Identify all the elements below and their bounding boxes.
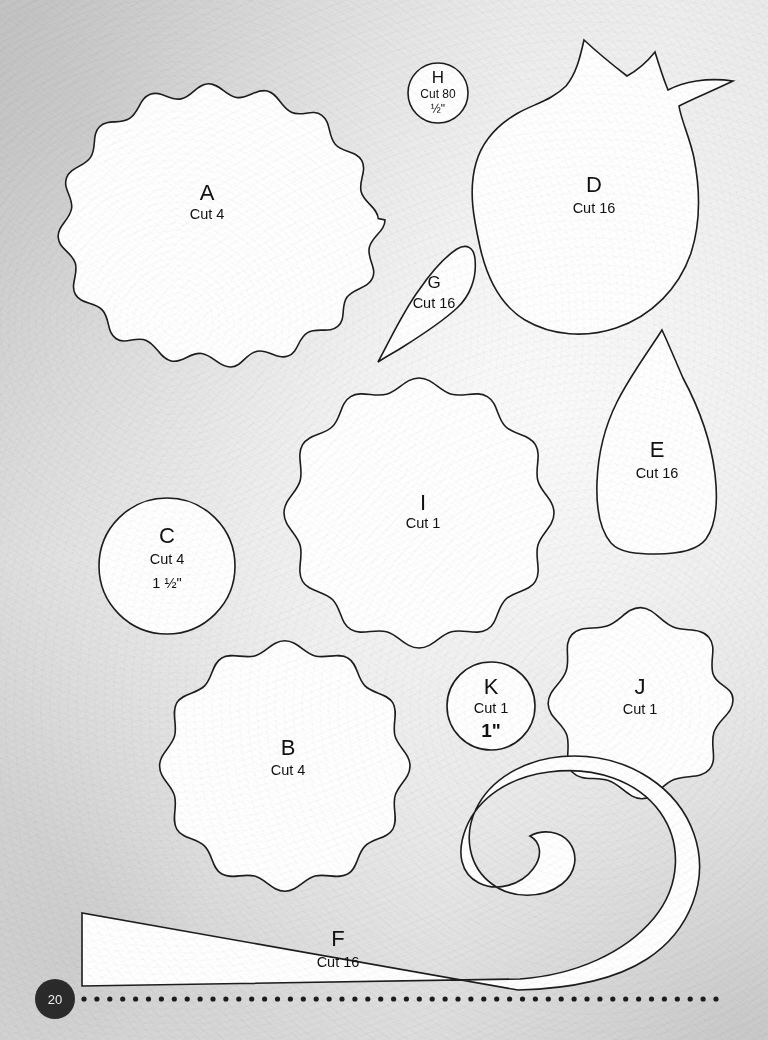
- dotted-rule-dot: [675, 996, 680, 1001]
- dotted-rule-dot: [210, 996, 215, 1001]
- pattern-piece-k[interactable]: K Cut 1 1": [447, 662, 535, 750]
- piece-c-letter: C: [159, 523, 175, 548]
- dotted-rule-dot: [623, 996, 628, 1001]
- dotted-rule-dot: [636, 996, 641, 1001]
- piece-a-outline: [58, 84, 385, 367]
- dotted-rule-dot: [172, 996, 177, 1001]
- page-number-badge: 20: [35, 979, 75, 1019]
- piece-i-letter: I: [420, 490, 426, 515]
- dotted-rule-dot: [417, 996, 422, 1001]
- pattern-piece-a[interactable]: A Cut 4: [58, 84, 385, 367]
- piece-d-outline: [472, 40, 733, 334]
- dotted-rule-dot: [146, 996, 151, 1001]
- dotted-rule-dot: [520, 996, 525, 1001]
- dotted-rule-dot: [584, 996, 589, 1001]
- dotted-rule-dot: [546, 996, 551, 1001]
- dotted-rule-dot: [713, 996, 718, 1001]
- piece-h-size: ½": [431, 102, 445, 116]
- piece-d-letter: D: [586, 172, 602, 197]
- dotted-rule-dot: [223, 996, 228, 1001]
- dotted-rule-dot: [185, 996, 190, 1001]
- pattern-page: A Cut 4 H Cut 80 ½" D Cut 16 G Cut 16 E …: [0, 0, 768, 1040]
- dotted-rule-dot: [533, 996, 538, 1001]
- dotted-rule-dot: [701, 996, 706, 1001]
- dotted-rule-dot: [327, 996, 332, 1001]
- piece-f-letter: F: [331, 926, 344, 951]
- pattern-piece-c[interactable]: C Cut 4 1 ½": [99, 498, 235, 634]
- dotted-rule-dot: [597, 996, 602, 1001]
- piece-h-letter: H: [432, 68, 444, 87]
- dotted-rule-dot: [404, 996, 409, 1001]
- dotted-rule-dot: [262, 996, 267, 1001]
- pattern-piece-g[interactable]: G Cut 16: [378, 246, 475, 362]
- piece-g-letter: G: [427, 273, 440, 292]
- dotted-rule: [81, 996, 718, 1001]
- piece-k-letter: K: [484, 674, 499, 699]
- piece-c-cut: Cut 4: [150, 551, 185, 567]
- dotted-rule-dot: [610, 996, 615, 1001]
- dotted-rule-dot: [198, 996, 203, 1001]
- dotted-rule-dot: [494, 996, 499, 1001]
- piece-g-cut: Cut 16: [413, 295, 456, 311]
- piece-c-size: 1 ½": [152, 575, 181, 591]
- pattern-piece-d[interactable]: D Cut 16: [472, 40, 733, 334]
- piece-k-size: 1": [481, 720, 501, 741]
- dotted-rule-dot: [339, 996, 344, 1001]
- dotted-rule-dot: [481, 996, 486, 1001]
- piece-j-letter: J: [635, 674, 646, 699]
- dotted-rule-dot: [378, 996, 383, 1001]
- piece-a-letter: A: [200, 180, 215, 205]
- dotted-rule-dot: [249, 996, 254, 1001]
- dotted-rule-dot: [120, 996, 125, 1001]
- dotted-rule-dot: [365, 996, 370, 1001]
- dotted-rule-dot: [301, 996, 306, 1001]
- dotted-rule-dot: [314, 996, 319, 1001]
- pattern-artboard: A Cut 4 H Cut 80 ½" D Cut 16 G Cut 16 E …: [0, 0, 768, 1040]
- pattern-piece-i[interactable]: I Cut 1: [284, 378, 554, 648]
- dotted-rule-dot: [688, 996, 693, 1001]
- piece-e-letter: E: [650, 437, 665, 462]
- dotted-rule-dot: [468, 996, 473, 1001]
- dotted-rule-dot: [159, 996, 164, 1001]
- dotted-rule-dot: [559, 996, 564, 1001]
- pattern-piece-b[interactable]: B Cut 4: [160, 641, 410, 891]
- page-number-text: 20: [48, 992, 62, 1007]
- piece-e-cut: Cut 16: [636, 465, 679, 481]
- piece-b-letter: B: [281, 735, 296, 760]
- dotted-rule-dot: [455, 996, 460, 1001]
- dotted-rule-dot: [572, 996, 577, 1001]
- pattern-piece-h[interactable]: H Cut 80 ½": [408, 63, 468, 123]
- piece-b-cut: Cut 4: [271, 762, 306, 778]
- dotted-rule-dot: [133, 996, 138, 1001]
- pattern-piece-e[interactable]: E Cut 16: [597, 330, 716, 554]
- dotted-rule-dot: [236, 996, 241, 1001]
- piece-j-cut: Cut 1: [623, 701, 658, 717]
- piece-a-cut: Cut 4: [190, 206, 225, 222]
- piece-f-cut: Cut 16: [317, 954, 360, 970]
- dotted-rule-dot: [94, 996, 99, 1001]
- dotted-rule-dot: [275, 996, 280, 1001]
- dotted-rule-dot: [443, 996, 448, 1001]
- dotted-rule-dot: [81, 996, 86, 1001]
- dotted-rule-dot: [107, 996, 112, 1001]
- dotted-rule-dot: [288, 996, 293, 1001]
- dotted-rule-dot: [391, 996, 396, 1001]
- piece-h-cut: Cut 80: [420, 87, 456, 101]
- dotted-rule-dot: [649, 996, 654, 1001]
- piece-d-cut: Cut 16: [573, 200, 616, 216]
- dotted-rule-dot: [662, 996, 667, 1001]
- piece-i-cut: Cut 1: [406, 515, 441, 531]
- piece-k-cut: Cut 1: [474, 700, 509, 716]
- dotted-rule-dot: [430, 996, 435, 1001]
- dotted-rule-dot: [352, 996, 357, 1001]
- dotted-rule-dot: [507, 996, 512, 1001]
